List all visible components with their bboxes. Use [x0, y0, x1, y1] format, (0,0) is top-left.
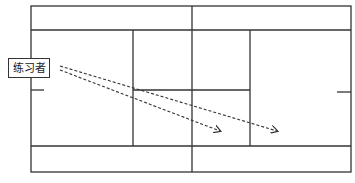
court-outer-boundary	[31, 6, 351, 172]
dashed-arrow-long	[60, 66, 277, 131]
practitioner-label: 练习者	[8, 58, 50, 78]
tennis-court-diagram	[0, 0, 355, 183]
dashed-arrow-short	[60, 70, 220, 131]
practitioner-label-text: 练习者	[13, 63, 46, 74]
